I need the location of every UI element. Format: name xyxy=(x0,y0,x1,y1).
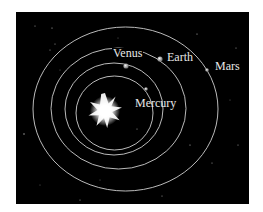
label-venus: Venus xyxy=(113,46,143,60)
label-earth: Earth xyxy=(167,50,193,64)
planet-earth xyxy=(157,56,162,61)
planet-venus xyxy=(123,63,128,68)
solar-system-diagram: Venus Earth Mars Mercury xyxy=(0,0,263,212)
label-mercury: Mercury xyxy=(135,96,176,110)
label-mars: Mars xyxy=(215,59,240,73)
planet-mercury xyxy=(144,87,148,91)
planet-mars xyxy=(205,68,209,72)
